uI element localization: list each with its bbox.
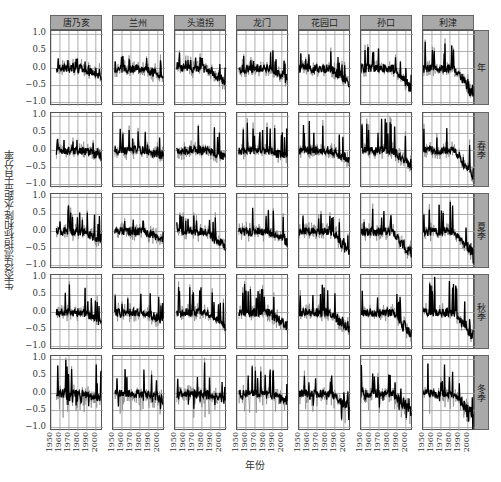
x-tick: 2000 <box>276 432 285 452</box>
facet-panel-3-5 <box>360 274 412 349</box>
x-tick: 1980 <box>382 432 391 452</box>
facet-panel-0-3 <box>236 30 288 105</box>
x-tick: 1960 <box>364 432 373 452</box>
x-tick: 1970 <box>125 432 134 452</box>
y-tick: 1.0 <box>16 352 46 362</box>
facet-panel-4-1 <box>112 355 164 430</box>
y-tick: 0.0 <box>16 225 46 235</box>
facet-panel-1-5 <box>360 112 412 187</box>
facet-panel-0-4 <box>298 30 350 105</box>
x-tick: 2000 <box>152 432 161 452</box>
facet-panel-4-2 <box>174 355 226 430</box>
facet-strip-4: 花园口 <box>298 15 350 30</box>
facet-panel-4-5 <box>360 355 412 430</box>
x-axis-label: 年份 <box>245 457 265 472</box>
facet-panel-2-3 <box>236 193 288 268</box>
facet-panel-1-2 <box>174 112 226 187</box>
y-tick: 0.5 <box>16 44 46 54</box>
x-tick: 1960 <box>302 432 311 452</box>
facet-strip-1: 兰州 <box>112 15 164 30</box>
y-tick: 0.5 <box>16 288 46 298</box>
y-tick: −0.5 <box>16 404 46 414</box>
facet-panel-1-6 <box>422 112 474 187</box>
x-tick: 1990 <box>143 432 152 452</box>
facet-panel-2-2 <box>174 193 226 268</box>
x-tick: 1980 <box>72 432 81 452</box>
facet-strip-2: 头道拐 <box>174 15 226 30</box>
facet-panel-2-6 <box>422 193 474 268</box>
row-strip-3: 秋季 <box>474 274 489 349</box>
y-tick: 0.5 <box>16 207 46 217</box>
x-tick: 1950 <box>231 432 240 452</box>
y-tick: 0.0 <box>16 387 46 397</box>
y-tick: 0.0 <box>16 306 46 316</box>
y-tick: −0.5 <box>16 161 46 171</box>
y-tick: −1.0 <box>16 421 46 431</box>
facet-strip-5: 孙口 <box>360 15 412 30</box>
row-strip-2: 夏季 <box>474 193 489 268</box>
x-tick: 1950 <box>169 432 178 452</box>
x-tick: 2000 <box>462 432 471 452</box>
facet-panel-3-1 <box>112 274 164 349</box>
y-tick: 1.0 <box>16 190 46 200</box>
facet-panel-4-6 <box>422 355 474 430</box>
y-tick: 1.0 <box>16 109 46 119</box>
x-tick: 1990 <box>205 432 214 452</box>
facet-panel-2-1 <box>112 193 164 268</box>
facet-panel-1-3 <box>236 112 288 187</box>
x-tick: 1970 <box>435 432 444 452</box>
x-tick: 1980 <box>320 432 329 452</box>
x-tick: 1960 <box>116 432 125 452</box>
facet-panel-3-0 <box>50 274 102 349</box>
x-tick: 2000 <box>338 432 347 452</box>
x-tick: 2000 <box>214 432 223 452</box>
x-tick: 1960 <box>426 432 435 452</box>
x-tick: 1990 <box>329 432 338 452</box>
x-tick: 1960 <box>54 432 63 452</box>
x-tick: 1950 <box>45 432 54 452</box>
facet-strip-0: 唐乃亥 <box>50 15 102 30</box>
x-tick: 1980 <box>258 432 267 452</box>
facet-panel-2-0 <box>50 193 102 268</box>
y-tick: 0.0 <box>16 62 46 72</box>
x-tick: 1950 <box>107 432 116 452</box>
facet-panel-4-4 <box>298 355 350 430</box>
facet-panel-0-1 <box>112 30 164 105</box>
facet-panel-0-0 <box>50 30 102 105</box>
row-strip-4: 冬季 <box>474 355 489 430</box>
y-tick: 1.0 <box>16 27 46 37</box>
x-tick: 1950 <box>293 432 302 452</box>
facet-panel-4-0 <box>50 355 102 430</box>
facet-panel-1-0 <box>50 112 102 187</box>
facet-panel-0-6 <box>422 30 474 105</box>
x-tick: 1950 <box>355 432 364 452</box>
x-tick: 2000 <box>400 432 409 452</box>
x-tick: 1990 <box>453 432 462 452</box>
facet-panel-4-3 <box>236 355 288 430</box>
facet-panel-1-1 <box>112 112 164 187</box>
facet-panel-2-4 <box>298 193 350 268</box>
x-tick: 1960 <box>240 432 249 452</box>
y-tick: 1.0 <box>16 271 46 281</box>
x-tick: 1980 <box>444 432 453 452</box>
facet-strip-3: 龙门 <box>236 15 288 30</box>
x-tick: 1970 <box>249 432 258 452</box>
y-tick: 0.0 <box>16 144 46 154</box>
y-tick: −1.0 <box>16 259 46 269</box>
x-tick: 1980 <box>134 432 143 452</box>
facet-panel-1-4 <box>298 112 350 187</box>
x-tick: 1990 <box>391 432 400 452</box>
row-strip-1: 春季 <box>474 112 489 187</box>
x-tick: 1970 <box>63 432 72 452</box>
x-tick: 2000 <box>90 432 99 452</box>
x-tick: 1960 <box>178 432 187 452</box>
x-tick: 1980 <box>196 432 205 452</box>
y-axis-label: 生态径流指标和降水距平百分率 <box>2 150 17 290</box>
y-tick: −1.0 <box>16 96 46 106</box>
row-strip-0: 年 <box>474 30 489 105</box>
x-tick: 1950 <box>417 432 426 452</box>
facet-panel-0-2 <box>174 30 226 105</box>
y-tick: −1.0 <box>16 340 46 350</box>
facet-panel-3-6 <box>422 274 474 349</box>
y-tick: 0.5 <box>16 369 46 379</box>
